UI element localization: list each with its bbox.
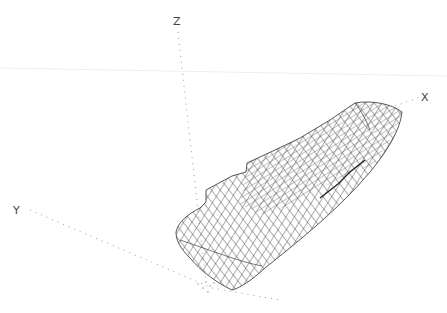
faint-rule bbox=[0, 68, 447, 76]
x-axis-line bbox=[395, 97, 420, 106]
hull-wireframe-figure: Z X Y bbox=[0, 0, 447, 313]
axis-extension bbox=[212, 288, 280, 300]
origin-marker bbox=[197, 281, 215, 293]
y-axis-label: Y bbox=[13, 204, 20, 217]
z-axis-label: Z bbox=[173, 15, 181, 28]
figure-svg bbox=[0, 0, 447, 313]
x-axis-label: X bbox=[421, 91, 429, 104]
